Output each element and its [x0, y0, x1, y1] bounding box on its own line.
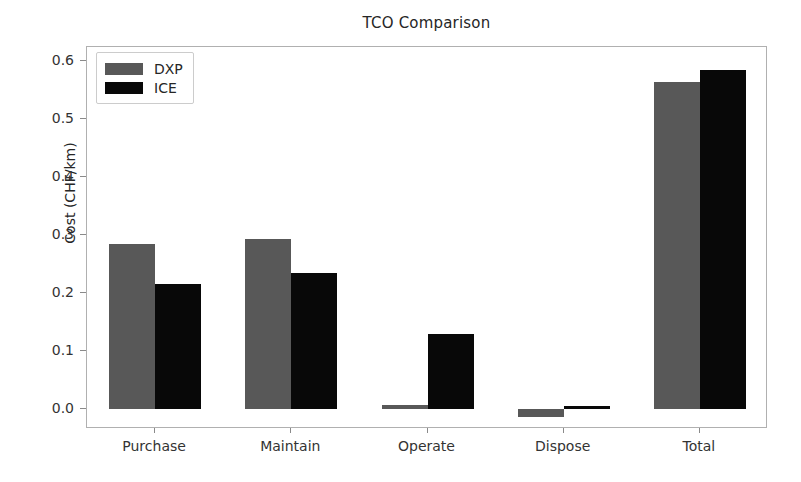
y-tick-label: 0.3: [28, 226, 74, 242]
y-tick-label: 0.1: [28, 342, 74, 358]
bar-maintain-ice: [291, 273, 337, 409]
x-tick-mark: [563, 428, 564, 433]
chart-title: TCO Comparison: [86, 14, 767, 32]
x-tick-mark: [290, 428, 291, 433]
bar-total-dxp: [654, 82, 700, 409]
y-tick-label: 0.0: [28, 400, 74, 416]
bar-purchase-dxp: [109, 244, 155, 409]
y-tick-label: 0.5: [28, 110, 74, 126]
bar-purchase-ice: [155, 284, 201, 408]
y-tick-label: 0.4: [28, 168, 74, 184]
bar-dispose-dxp: [518, 409, 564, 417]
bar-total-ice: [700, 70, 746, 409]
legend-item-dxp[interactable]: DXP: [105, 59, 183, 78]
y-tick-label: 0.2: [28, 284, 74, 300]
legend-label: ICE: [154, 81, 177, 95]
legend-label: DXP: [154, 62, 183, 76]
chart-figure: TCO Comparison Cost (CHF/km) 0.00.10.20.…: [0, 0, 801, 482]
x-tick-mark: [154, 428, 155, 433]
x-tick-mark: [699, 428, 700, 433]
y-axis-label: Cost (CHF/km): [62, 113, 78, 273]
bar-operate-dxp: [382, 405, 428, 409]
chart-legend: DXPICE: [96, 52, 194, 104]
bar-operate-ice: [428, 334, 474, 409]
y-tick-label: 0.6: [28, 52, 74, 68]
legend-swatch-ice-icon: [105, 82, 143, 94]
legend-swatch-dxp-icon: [105, 63, 143, 75]
x-tick-mark: [427, 428, 428, 433]
bar-maintain-dxp: [245, 239, 291, 409]
legend-item-ice[interactable]: ICE: [105, 78, 183, 97]
bar-dispose-ice: [564, 406, 610, 409]
bars-layer: [87, 47, 766, 427]
x-tick-label: Total: [619, 438, 779, 454]
